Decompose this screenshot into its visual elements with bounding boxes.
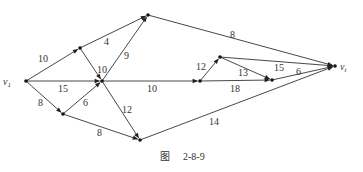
figure-caption-number: 2-8-9	[183, 151, 205, 162]
node-G	[218, 55, 222, 59]
node-F	[198, 79, 202, 83]
edge-weight-label: 18	[230, 83, 240, 94]
edge-weight-label: 10	[38, 53, 48, 64]
edge-weight-label: 14	[209, 116, 219, 127]
edge-weight-label: 6	[83, 97, 88, 108]
edge-weight-label: 13	[238, 67, 248, 78]
node-label-vt: vt	[340, 61, 347, 74]
edge-weight-label: 12	[122, 104, 132, 115]
node-v1	[24, 79, 28, 83]
edge-v1-D	[26, 81, 61, 112]
node-E	[138, 138, 142, 142]
edge-weight-label: 8	[97, 127, 102, 138]
edge-F-H	[200, 80, 270, 81]
edge-weight-label: 6	[296, 66, 301, 77]
edge-v1-A	[26, 49, 78, 81]
edge-B-vt	[148, 15, 333, 65]
node-A	[78, 46, 82, 50]
node-H	[270, 78, 274, 82]
node-D	[61, 112, 65, 116]
node-B	[146, 13, 150, 17]
edge-weight-label: 15	[274, 62, 284, 73]
edge-weight-label: 8	[230, 29, 235, 40]
node-vt	[333, 64, 337, 68]
edge-weight-label: 12	[196, 61, 206, 72]
nodes-layer	[24, 13, 337, 142]
edge-weight-label: 9	[124, 50, 129, 61]
figure-caption-prefix: 图	[160, 151, 170, 162]
edge-D-C	[63, 83, 100, 114]
edge-weight-label: 8	[38, 97, 43, 108]
network-graph: 104151098612810121318156814 v1 vt 图 2-8-…	[0, 0, 363, 172]
edge-weight-label: 15	[58, 83, 68, 94]
weight-labels-layer: 104151098612810121318156814	[38, 29, 301, 138]
svg-text:vt: vt	[340, 61, 347, 74]
edges-layer	[26, 15, 333, 140]
edge-E-vt	[140, 67, 333, 140]
edge-weight-label: 4	[104, 36, 109, 47]
edge-weight-label: 10	[97, 64, 107, 75]
edge-weight-label: 10	[147, 83, 157, 94]
node-label-v1: v1	[3, 76, 11, 89]
node-C	[100, 79, 104, 83]
svg-text:v1: v1	[3, 76, 11, 89]
